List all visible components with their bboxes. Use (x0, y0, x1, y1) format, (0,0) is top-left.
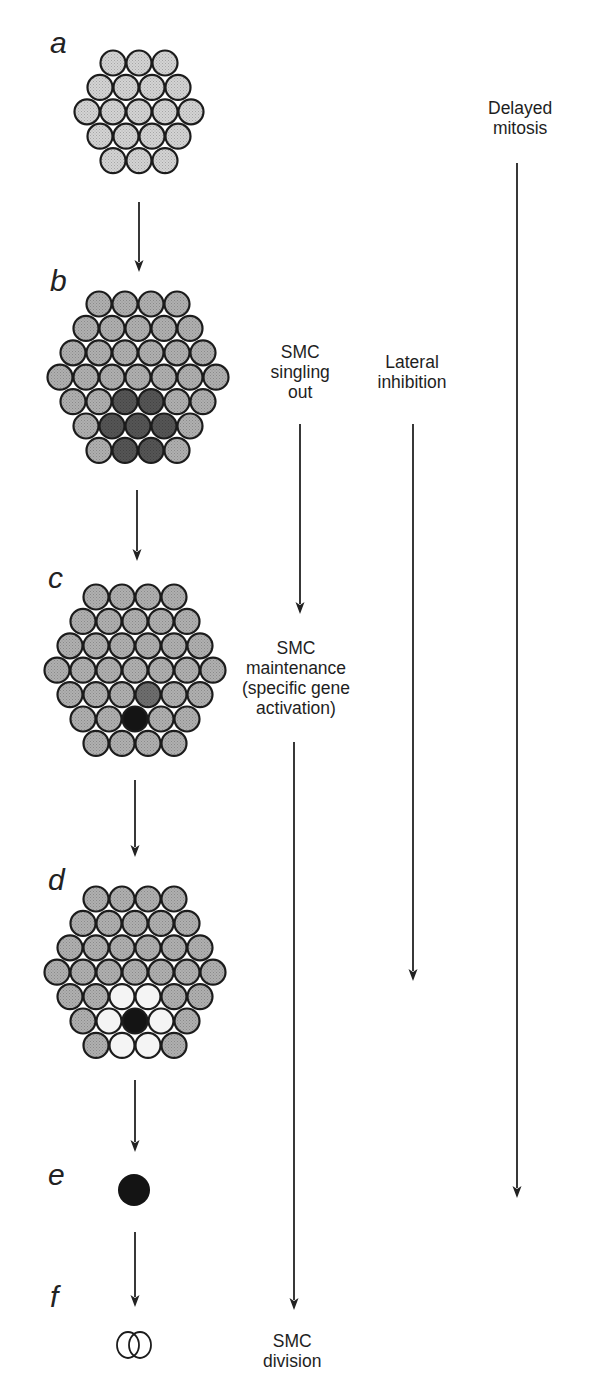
cell-texture (88, 341, 111, 364)
cell-texture (150, 912, 173, 935)
cell-texture (189, 985, 212, 1008)
label-smc-maintenance: SMC maintenance (specific gene activatio… (242, 638, 350, 718)
smc-cell (118, 1174, 150, 1206)
cell-texture (59, 683, 82, 706)
cell-texture (88, 293, 111, 316)
panel-letter-d: d (48, 865, 65, 895)
cell-texture (85, 985, 108, 1008)
cell-texture (176, 659, 199, 682)
cell-texture (180, 100, 203, 123)
cell-texture (141, 76, 164, 99)
cell-texture (72, 961, 95, 984)
cell-texture (176, 961, 199, 984)
cell-white (136, 1033, 161, 1058)
cell-texture (111, 683, 134, 706)
cell-texture (179, 317, 202, 340)
cell-texture (89, 76, 112, 99)
cell-texture (163, 683, 186, 706)
cell-texture (179, 415, 202, 438)
cell-texture (137, 586, 160, 609)
cell-white (110, 984, 135, 1009)
cell-panels (45, 51, 229, 1359)
cell-texture (166, 293, 189, 316)
cell-texture (88, 439, 111, 462)
cell-texture (128, 100, 151, 123)
panel-letter-f: f (50, 1282, 58, 1312)
cell-texture (154, 52, 177, 75)
cell-white (110, 1033, 135, 1058)
panel-c (45, 585, 226, 756)
cell-texture (176, 1010, 199, 1033)
panel-letter-b: b (50, 266, 67, 296)
label-smc-division: SMC division (263, 1331, 321, 1371)
cell-texture (98, 659, 121, 682)
cell-texture (163, 936, 186, 959)
cell-texture (59, 936, 82, 959)
cell-texture (85, 936, 108, 959)
cell-texture (167, 76, 190, 99)
cell-texture (140, 390, 163, 413)
cell-texture (128, 149, 151, 172)
cell-white (97, 1009, 122, 1034)
cell-texture (49, 366, 72, 389)
cell-texture (85, 683, 108, 706)
cell-texture (166, 439, 189, 462)
cell-texture (85, 888, 108, 911)
cell-texture (192, 341, 215, 364)
cell-texture (115, 76, 138, 99)
cell-texture (163, 1034, 186, 1057)
cell-texture (124, 659, 147, 682)
cell-texture (140, 439, 163, 462)
cell-texture (140, 341, 163, 364)
label-delayed-mitosis: Delayed mitosis (488, 98, 552, 138)
cell-texture (72, 659, 95, 682)
panel-d (45, 887, 226, 1058)
cell-texture (179, 366, 202, 389)
cell-texture (114, 341, 137, 364)
cell-texture (154, 100, 177, 123)
cell-texture (75, 415, 98, 438)
cell-texture (166, 390, 189, 413)
cell-black (123, 1009, 148, 1034)
panel-a (75, 51, 204, 174)
cell-texture (75, 317, 98, 340)
cell-texture (154, 149, 177, 172)
cell-texture (163, 732, 186, 755)
cell-texture (137, 936, 160, 959)
cell-texture (85, 634, 108, 657)
cell-texture (72, 912, 95, 935)
cell-texture (153, 366, 176, 389)
cell-texture (72, 1010, 95, 1033)
cell-texture (189, 683, 212, 706)
cell-texture (111, 732, 134, 755)
panel-b (48, 292, 229, 463)
cell-texture (102, 100, 125, 123)
cell-texture (98, 961, 121, 984)
cell-texture (59, 985, 82, 1008)
cell-texture (111, 888, 134, 911)
cell-texture (89, 125, 112, 148)
cell-texture (127, 366, 150, 389)
cell-texture (150, 961, 173, 984)
cell-texture (76, 100, 99, 123)
cell-texture (167, 125, 190, 148)
cell-texture (72, 708, 95, 731)
cell-texture (115, 125, 138, 148)
cell-texture (111, 936, 134, 959)
cell-texture (124, 961, 147, 984)
cell-texture (124, 912, 147, 935)
cell-texture (114, 439, 137, 462)
cell-texture (98, 610, 121, 633)
cell-texture (176, 708, 199, 731)
cell-texture (114, 293, 137, 316)
cell-texture (163, 888, 186, 911)
cell-texture (101, 317, 124, 340)
label-smc-singling-out: SMC singling out (271, 342, 330, 402)
cell-texture (59, 634, 82, 657)
cell-texture (205, 366, 228, 389)
panel-letter-a: a (50, 28, 67, 58)
cell-texture (150, 610, 173, 633)
panel-e (118, 1174, 150, 1206)
cell-texture (176, 912, 199, 935)
cell-texture (153, 415, 176, 438)
